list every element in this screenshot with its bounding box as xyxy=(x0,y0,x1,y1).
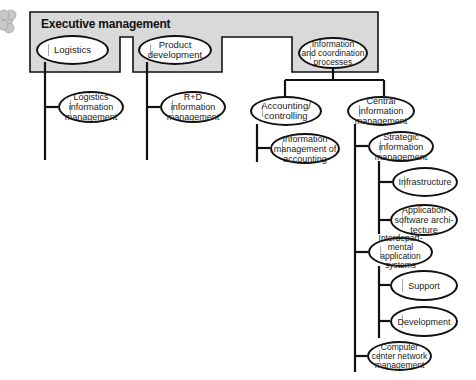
node-central-info-mgmt[interactable]: Central information management xyxy=(347,96,415,126)
node-logistics[interactable]: Logistics xyxy=(36,35,109,65)
node-app-software-arch[interactable]: Application software archi- tecture xyxy=(390,204,458,236)
node-computer-center[interactable]: Computer center network management xyxy=(367,341,432,371)
node-logistics-info-mgmt[interactable]: Logistics information management xyxy=(58,91,124,123)
frame-title: Executive management xyxy=(41,17,170,31)
node-info-coordination[interactable]: Information and coordination processes xyxy=(298,37,368,69)
cloud-icon xyxy=(0,10,16,33)
node-strategic-info-mgmt[interactable]: Strategic information management xyxy=(368,131,434,162)
node-development[interactable]: Development xyxy=(390,306,458,337)
node-product-development[interactable]: Product development xyxy=(138,35,212,65)
node-info-mgmt-accounting[interactable]: Information management of accounting xyxy=(270,133,340,164)
node-infrastructure[interactable]: Infrastructure xyxy=(392,167,458,197)
node-accounting[interactable]: Accounting/ controlling xyxy=(250,96,322,126)
node-interdepartmental[interactable]: Interdepart- mental application systems xyxy=(368,237,433,267)
node-support[interactable]: Support xyxy=(390,270,458,301)
node-rd-info-mgmt[interactable]: R+D information management xyxy=(160,91,226,123)
